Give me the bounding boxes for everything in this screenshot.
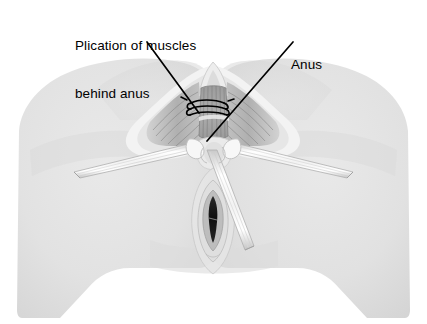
illustration-page: Plication of muscles behind anus Anus: [0, 0, 427, 324]
label-plication-line2: behind anus: [75, 86, 196, 102]
perineal-anatomy-illustration: [0, 0, 427, 324]
label-plication-line1: Plication of muscles: [75, 38, 196, 54]
label-plication-of-muscles: Plication of muscles behind anus: [75, 6, 196, 134]
label-anus-line1: Anus: [291, 57, 322, 73]
label-anus: Anus: [291, 25, 322, 105]
